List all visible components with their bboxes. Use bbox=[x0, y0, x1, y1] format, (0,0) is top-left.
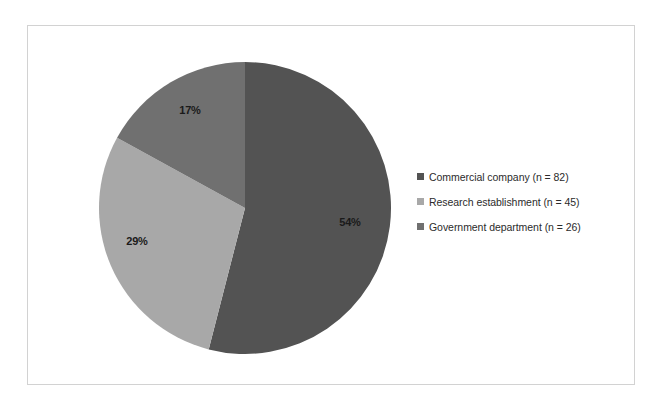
legend-swatch-icon-research-establishment bbox=[417, 198, 424, 205]
legend-item-commercial-company[interactable]: Commercial company (n = 82) bbox=[417, 164, 617, 189]
legend-item-research-establishment[interactable]: Research establishment (n = 45) bbox=[417, 189, 617, 214]
legend-label-government-department: Government department (n = 26) bbox=[429, 221, 581, 233]
pie-slice-label-commercial-company: 54% bbox=[339, 216, 360, 228]
pie-slice-label-government-department: 17% bbox=[179, 104, 200, 116]
chart-legend: Commercial company (n = 82) Research est… bbox=[417, 164, 617, 239]
legend-swatch-icon-government-department bbox=[417, 223, 424, 230]
pie-slice-group bbox=[99, 62, 391, 354]
pie-slice-label-research-establishment: 29% bbox=[126, 235, 147, 247]
legend-label-research-establishment: Research establishment (n = 45) bbox=[429, 196, 580, 208]
legend-label-commercial-company: Commercial company (n = 82) bbox=[429, 171, 569, 183]
pie-chart-plot-area: 54% 29% 17% Commercial company (n = 82) … bbox=[0, 0, 662, 407]
legend-swatch-icon-commercial-company bbox=[417, 173, 424, 180]
legend-item-government-department[interactable]: Government department (n = 26) bbox=[417, 214, 617, 239]
